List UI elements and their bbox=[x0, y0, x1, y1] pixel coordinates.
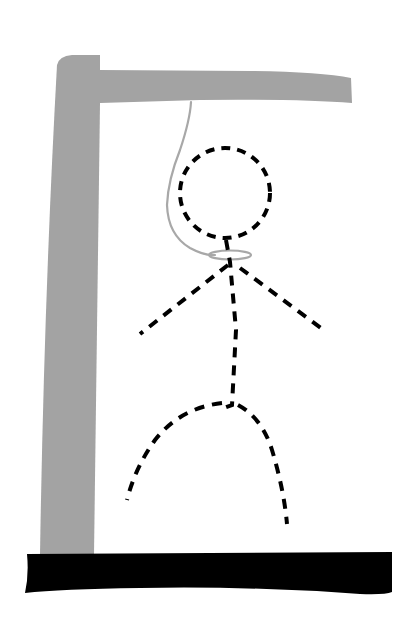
gallows-post bbox=[40, 55, 100, 555]
gallows-beam bbox=[100, 70, 352, 103]
left-arm bbox=[140, 265, 228, 334]
head bbox=[180, 148, 270, 238]
left-leg bbox=[127, 403, 222, 500]
right-arm bbox=[240, 268, 321, 328]
right-leg bbox=[238, 405, 287, 524]
gallows-base bbox=[25, 552, 392, 594]
rope bbox=[167, 102, 215, 255]
hangman-illustration bbox=[0, 0, 412, 630]
